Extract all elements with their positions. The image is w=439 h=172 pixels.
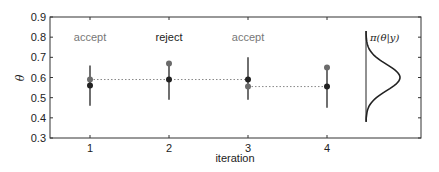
y-axis-label: θ	[14, 74, 27, 81]
posterior-density: π(θ|y)	[366, 31, 400, 122]
decision-label: accept	[232, 31, 264, 43]
iteration-2: reject	[156, 31, 183, 100]
x-axis-label: iteration	[215, 152, 254, 164]
y-tick-label: 0.7	[31, 51, 46, 63]
decision-label: accept	[74, 31, 106, 43]
proposal-point	[324, 64, 330, 70]
x-tick-label: 4	[324, 142, 330, 154]
y-tick-label: 0.5	[31, 92, 46, 104]
posterior-label: π(θ|y)	[369, 32, 400, 44]
current-point	[245, 77, 251, 83]
y-tick-label: 0.3	[31, 132, 46, 144]
decision-label: reject	[156, 31, 183, 43]
y-tick-label: 0.6	[31, 72, 46, 84]
iteration-1: accept	[74, 31, 106, 106]
mcmc-chart: 0.30.40.50.60.70.80.91234 acceptrejectac…	[0, 0, 439, 172]
chain-path	[90, 80, 327, 87]
y-tick-label: 0.8	[31, 31, 46, 43]
y-tick-label: 0.4	[31, 112, 46, 124]
proposal-point	[245, 84, 251, 90]
current-point	[166, 77, 172, 83]
y-tick-label: 0.9	[31, 11, 46, 23]
x-tick-label: 1	[87, 142, 93, 154]
current-point	[324, 84, 330, 90]
iteration-4	[324, 64, 330, 107]
proposal-point	[166, 60, 172, 66]
proposal-point	[87, 77, 93, 83]
posterior-curve	[366, 31, 400, 122]
current-point	[87, 83, 93, 89]
x-tick-label: 2	[166, 142, 172, 154]
iteration-points: acceptrejectaccept	[74, 31, 330, 108]
iteration-3: accept	[232, 31, 264, 100]
